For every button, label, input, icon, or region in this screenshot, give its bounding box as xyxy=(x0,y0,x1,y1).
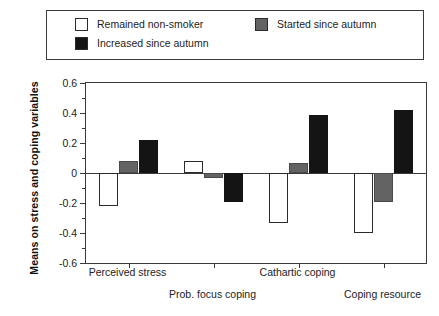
x-axis-category-label: Prob. focus coping xyxy=(169,288,256,300)
bar xyxy=(309,115,328,174)
gray-square-icon xyxy=(255,18,268,31)
legend-label: Increased since autumn xyxy=(97,37,208,50)
bar xyxy=(374,173,393,202)
legend-label: Started since autumn xyxy=(277,18,376,31)
y-axis-tick-label: -0.2 xyxy=(59,197,77,209)
y-axis-tick xyxy=(80,173,86,174)
y-axis-tick-label: 0 xyxy=(71,167,77,179)
x-axis-tick xyxy=(384,263,385,268)
y-axis-minor-tick xyxy=(82,98,86,99)
y-axis-title: Means on stress and coping variables xyxy=(28,68,40,288)
legend-entry-started-since-autumn: Started since autumn xyxy=(255,18,376,31)
y-axis-tick xyxy=(80,233,86,234)
bar xyxy=(289,163,308,174)
legend-entry-increased-since-autumn: Increased since autumn xyxy=(75,37,208,50)
bar xyxy=(99,173,118,206)
y-axis-tick-label: 0.6 xyxy=(62,77,77,89)
y-axis-minor-tick xyxy=(82,158,86,159)
y-axis-tick-label: 0.2 xyxy=(62,137,77,149)
legend-entry-remained-non-smoker: Remained non-smoker xyxy=(75,18,203,31)
y-axis-minor-tick xyxy=(82,218,86,219)
white-square-icon xyxy=(75,18,88,31)
bar xyxy=(394,110,413,173)
y-axis-tick xyxy=(80,113,86,114)
legend-label: Remained non-smoker xyxy=(97,18,203,31)
x-axis-category-label: Cathartic coping xyxy=(260,266,336,278)
bar xyxy=(224,173,243,202)
y-axis-tick xyxy=(80,143,86,144)
bar xyxy=(204,173,223,178)
bar xyxy=(139,140,158,173)
y-axis-tick xyxy=(80,83,86,84)
y-axis-tick-label: -0.6 xyxy=(59,257,77,269)
bar xyxy=(184,161,203,173)
y-axis-tick xyxy=(80,203,86,204)
y-axis-tick-label: -0.4 xyxy=(59,227,77,239)
chart-legend: Remained non-smoker Increased since autu… xyxy=(46,10,424,60)
y-axis-tick-label: 0.4 xyxy=(62,107,77,119)
x-axis-category-label: Coping resource xyxy=(344,288,421,300)
black-square-icon xyxy=(75,37,88,50)
x-axis-category-label: Perceived stress xyxy=(89,266,167,278)
plot-area: 0.60.40.20-0.2-0.4-0.6 xyxy=(85,82,427,264)
bar xyxy=(269,173,288,223)
x-axis-tick xyxy=(214,263,215,268)
y-axis-tick xyxy=(80,263,86,264)
bar xyxy=(119,161,138,173)
y-axis-minor-tick xyxy=(82,128,86,129)
y-axis-minor-tick xyxy=(82,188,86,189)
bar xyxy=(354,173,373,233)
y-axis-minor-tick xyxy=(82,248,86,249)
